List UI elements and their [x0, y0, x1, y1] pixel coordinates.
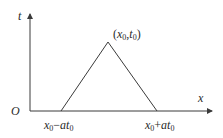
origin-label: O — [11, 105, 20, 117]
apex-close-paren: ) — [137, 27, 141, 41]
diagram-canvas — [0, 0, 223, 138]
right-sub-t: 0 — [170, 124, 174, 133]
left-sub-t: 0 — [69, 124, 73, 133]
characteristic-triangle — [61, 42, 157, 111]
left-base-label: x0−at0 — [44, 119, 73, 133]
right-base-label: x0+at0 — [145, 119, 174, 133]
t-axis-label: t — [18, 10, 21, 22]
x-axis-label: x — [198, 92, 203, 104]
apex-label: (x0,t0) — [113, 28, 141, 42]
